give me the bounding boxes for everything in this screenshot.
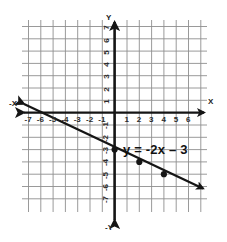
x-tick--2: -2 (86, 115, 93, 124)
x-tick-3: 3 (149, 115, 153, 124)
x-tick-5: 5 (174, 115, 178, 124)
y-tick--4: -4 (101, 159, 110, 166)
y-tick--6: -6 (101, 184, 110, 191)
y-axis-label-negative: -Y (105, 223, 113, 232)
y-tick--7: -7 (101, 196, 110, 203)
y-tick-4: 4 (102, 62, 111, 66)
y-tick-1: 1 (102, 99, 111, 103)
coordinate-plane (0, 0, 227, 242)
y-tick-2: 2 (102, 87, 111, 91)
y-tick--3: -3 (101, 147, 110, 154)
y-axis-label: Y (106, 13, 111, 22)
y-tick-7: 7 (102, 25, 111, 29)
x-axis-label: X (208, 97, 213, 106)
x-tick-4: 4 (161, 115, 165, 124)
x-tick-1: 1 (125, 115, 129, 124)
graph-figure: X -X Y -Y -7 -6 -5 -4 -3 -2 -1 1 2 3 4 5… (0, 0, 227, 242)
x-tick--3: -3 (74, 115, 81, 124)
x-tick--5: -5 (49, 115, 56, 124)
equation-annotation: y = -2x – 3 (123, 142, 188, 157)
x-tick-6: 6 (186, 115, 190, 124)
x-tick--4: -4 (61, 115, 68, 124)
x-tick--6: -6 (37, 115, 44, 124)
point-y-intercept (112, 147, 118, 153)
y-tick-3: 3 (102, 75, 111, 79)
y-tick--5: -5 (101, 171, 110, 178)
y-tick-6: 6 (102, 38, 111, 42)
x-tick--7: -7 (25, 115, 32, 124)
x-tick-2: 2 (137, 115, 141, 124)
point-on-line-2 (161, 171, 167, 177)
y-tick--2: -2 (101, 135, 110, 142)
y-tick-5: 5 (102, 50, 111, 54)
y-tick--1: -1 (101, 122, 110, 129)
x-axis-label-negative: -X (9, 99, 17, 108)
point-on-line-1 (136, 159, 142, 165)
